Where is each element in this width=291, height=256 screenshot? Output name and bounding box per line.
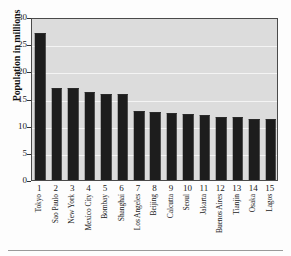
bar-slot	[48, 19, 64, 180]
bar-slot	[263, 19, 278, 180]
bar-slot	[114, 19, 130, 180]
x-category-label: Tokyo	[31, 194, 47, 250]
y-tick-label: 30	[18, 13, 27, 22]
bar[interactable]	[216, 117, 227, 180]
x-tick-label: 4	[80, 183, 96, 193]
x-category-label: Calcutta	[163, 194, 179, 250]
bar-slot	[197, 19, 213, 180]
bar[interactable]	[265, 119, 276, 180]
x-tick-label: 14	[245, 183, 261, 193]
bar-chart-figure: Population in millions 051015202530 1234…	[0, 0, 291, 256]
x-tick-label: 7	[130, 183, 146, 193]
x-category-label: Los Angeles	[130, 194, 146, 250]
bar-slot	[98, 19, 114, 180]
bar[interactable]	[51, 88, 62, 180]
x-tick-label: 15	[262, 183, 278, 193]
bar[interactable]	[150, 112, 161, 180]
x-tick-label: 6	[113, 183, 129, 193]
x-tick-label: 9	[163, 183, 179, 193]
x-category-label: Seoul	[179, 194, 195, 250]
bar[interactable]	[134, 111, 145, 180]
bar-slot	[147, 19, 163, 180]
x-category-label: Mexico City	[80, 194, 96, 250]
bar[interactable]	[233, 117, 244, 180]
bar[interactable]	[101, 94, 112, 180]
x-tick-label: 13	[229, 183, 245, 193]
bar[interactable]	[249, 119, 260, 180]
x-tick-label: 5	[97, 183, 113, 193]
x-category-label: Shanghai	[113, 194, 129, 250]
bar[interactable]	[84, 92, 95, 180]
x-tick-label: 12	[212, 183, 228, 193]
x-tick-label: 11	[196, 183, 212, 193]
bar-slot	[230, 19, 246, 180]
bar-slot	[32, 19, 48, 180]
x-category-label: Buenos Aires	[212, 194, 228, 250]
y-tick-label: 10	[18, 122, 27, 131]
bar-slot	[180, 19, 196, 180]
bar[interactable]	[68, 88, 79, 180]
x-category-label: Beijing	[146, 194, 162, 250]
bar-slot	[131, 19, 147, 180]
x-category-label: Tianjin	[229, 194, 245, 250]
bar-slot	[65, 19, 81, 180]
x-tick-label: 8	[146, 183, 162, 193]
x-tick-label: 3	[64, 183, 80, 193]
bar[interactable]	[35, 33, 46, 180]
plot-area	[31, 18, 278, 181]
y-tick-label: 25	[18, 40, 27, 49]
y-tick-label: 20	[18, 67, 27, 76]
x-tick-label: 1	[31, 183, 47, 193]
bottom-divider	[8, 250, 283, 251]
x-tick-label: 10	[179, 183, 195, 193]
x-category-label: Bombay	[97, 194, 113, 250]
bar[interactable]	[167, 113, 178, 180]
x-axis-category-labels: TokyoSao PauloNew YorkMexico CityBombayS…	[31, 194, 278, 252]
x-category-label: Sao Paulo	[47, 194, 63, 250]
bar[interactable]	[117, 94, 128, 180]
bar-slot	[213, 19, 229, 180]
y-axis-tick-labels: 051015202530	[0, 0, 31, 256]
y-tick-mark	[27, 181, 31, 182]
bar-slot	[246, 19, 262, 180]
x-category-label: Jakarta	[196, 194, 212, 250]
bar-slot	[81, 19, 97, 180]
x-category-label: Lagos	[262, 194, 278, 250]
bar[interactable]	[183, 114, 194, 180]
x-tick-label: 2	[47, 183, 63, 193]
bar[interactable]	[200, 115, 211, 180]
bar-series	[32, 19, 277, 180]
bar-slot	[164, 19, 180, 180]
x-category-label: New York	[64, 194, 80, 250]
y-tick-label: 15	[18, 95, 27, 104]
x-category-label: Osaka	[245, 194, 261, 250]
